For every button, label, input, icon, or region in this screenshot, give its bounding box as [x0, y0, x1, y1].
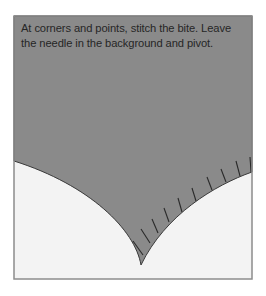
figure-caption: At corners and points, stitch the bite. … [21, 21, 246, 51]
stitch-diagram: At corners and points, stitch the bite. … [0, 0, 266, 296]
